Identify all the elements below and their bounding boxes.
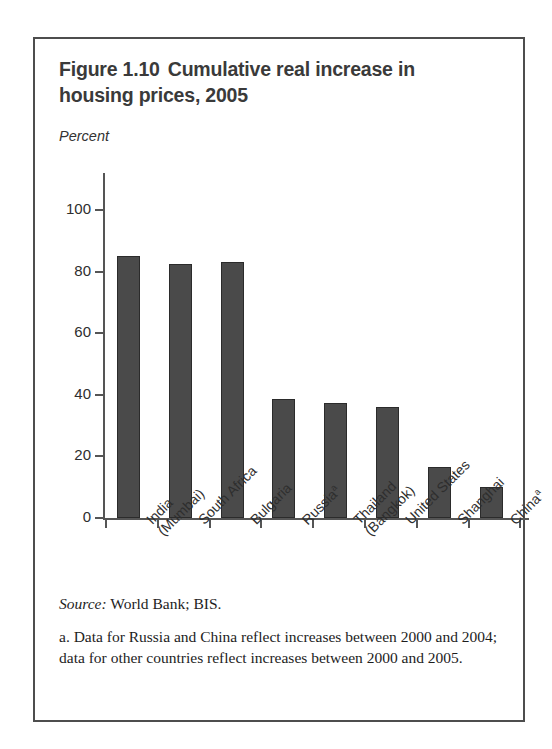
figure-number: Figure 1.10 [59,58,160,80]
y-axis-line [103,173,105,519]
y-tick-label-100: 100 [57,200,91,217]
figure-frame: Figure 1.10Cumulative real increase in h… [33,37,525,722]
figure-title: Figure 1.10Cumulative real increase in h… [59,56,489,108]
y-tick-40 [95,394,104,396]
y-tick-label-80: 80 [57,262,91,279]
figure-page: Figure 1.10Cumulative real increase in h… [0,0,552,749]
y-tick-20 [95,455,104,457]
source-line: Source: World Bank; BIS. [59,594,507,614]
y-tick-label-20: 20 [57,446,91,463]
y-tick-label-40: 40 [57,385,91,402]
source-label: Source: [59,595,107,612]
footnote-a: a. Data for Russia and China reflect inc… [59,627,507,668]
figure-notes: Source: World Bank; BIS. a. Data for Rus… [59,594,507,668]
figure-title-line2: housing prices, 2005 [59,84,248,106]
y-axis-unit-label: Percent [59,128,109,144]
y-tick-label-60: 60 [57,323,91,340]
bar-india-mumbai [117,256,140,518]
y-tick-100 [95,209,104,211]
y-tick-80 [95,271,104,273]
y-tick-60 [95,332,104,334]
notes-divider [59,588,507,589]
figure-title-line1: Cumulative real increase in [168,58,415,80]
category-label-china: Chinaa [506,487,547,528]
source-text: World Bank; BIS. [110,595,221,612]
